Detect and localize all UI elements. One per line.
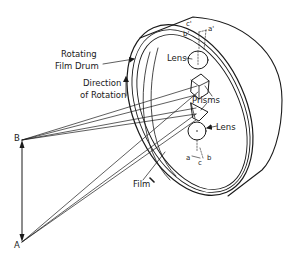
label-b-prime: b': [183, 30, 189, 38]
label-c: c: [198, 159, 202, 167]
label-a-prime: a': [208, 25, 214, 33]
image-marks-bottom: [192, 148, 203, 158]
label-film: Film: [133, 179, 150, 189]
object-arrow-ab: [20, 140, 25, 242]
label-a: a: [186, 154, 190, 162]
label-prisms: Prisms: [192, 95, 221, 105]
label-film-drum: Film Drum: [55, 61, 99, 71]
drum-rim: [102, 5, 278, 215]
film-drum-diagram: Rotating Film Drum Direction of Rotation…: [0, 0, 286, 260]
label-lens-top: Lens: [167, 53, 187, 63]
lens-bottom: [188, 122, 206, 152]
label-c-prime: c': [186, 20, 192, 28]
label-rotating: Rotating: [61, 49, 97, 59]
label-of-rotation: of Rotation: [80, 90, 126, 100]
label-point-b: B: [14, 133, 20, 143]
label-b: b: [207, 154, 212, 162]
label-point-a: A: [14, 240, 20, 250]
prism-lower: [191, 103, 208, 121]
label-direction: Direction: [83, 78, 121, 88]
lens-top: [188, 51, 208, 69]
label-lens-bottom: Lens: [216, 122, 236, 132]
